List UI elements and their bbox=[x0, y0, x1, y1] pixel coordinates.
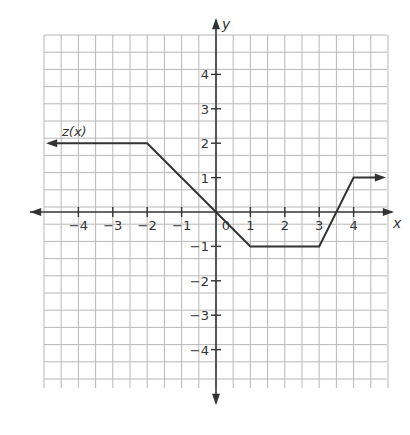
y-tick-label: −2 bbox=[190, 274, 209, 289]
y-tick-label: 4 bbox=[201, 67, 209, 82]
coordinate-plane: −4−3−2−101234−4−3−2−11234 z(x) x y bbox=[0, 0, 410, 435]
x-tick-label: −3 bbox=[103, 218, 122, 233]
x-axis-label: x bbox=[392, 215, 402, 231]
x-tick-label: 3 bbox=[315, 218, 323, 233]
x-axis-left-arrow-icon bbox=[30, 208, 41, 216]
x-tick-label: −1 bbox=[172, 218, 191, 233]
function-label: z(x) bbox=[61, 124, 87, 139]
axes bbox=[30, 18, 394, 405]
y-tick-label: −3 bbox=[190, 308, 209, 323]
y-tick-label: 3 bbox=[201, 102, 209, 117]
y-tick-label: 2 bbox=[201, 136, 209, 151]
curve-left-arrow-icon bbox=[46, 139, 57, 147]
x-tick-label: 4 bbox=[349, 218, 357, 233]
y-tick-label: 1 bbox=[201, 171, 209, 186]
y-tick-label: −1 bbox=[190, 239, 209, 254]
x-tick-label: −4 bbox=[69, 218, 88, 233]
x-tick-label: 1 bbox=[246, 218, 254, 233]
y-axis-label: y bbox=[221, 16, 231, 32]
x-tick-label: 2 bbox=[281, 218, 289, 233]
y-axis-up-arrow-icon bbox=[212, 18, 220, 29]
x-tick-label: −2 bbox=[138, 218, 157, 233]
y-tick-label: −4 bbox=[190, 343, 209, 358]
y-axis-down-arrow-icon bbox=[212, 394, 220, 405]
curve-right-arrow-icon bbox=[375, 174, 386, 182]
